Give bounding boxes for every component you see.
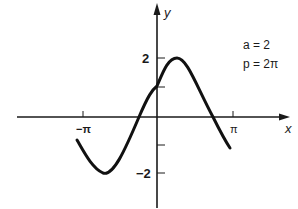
y-tick-label-2: 2 — [142, 51, 149, 66]
param-p-annotation: p = 2π — [243, 57, 278, 71]
sine-graph: y x −π π 2 −2 a = 2 p = 2π — [0, 0, 298, 209]
y-axis-label: y — [163, 5, 172, 20]
x-tick-label-neg-pi: −π — [76, 123, 91, 135]
y-axis-arrow-icon — [154, 3, 161, 15]
x-tick-label-pi: π — [230, 123, 238, 135]
x-axis-label: x — [284, 121, 292, 136]
param-a-annotation: a = 2 — [243, 38, 270, 52]
y-tick-label-neg2: −2 — [136, 166, 151, 181]
x-axis-arrow-icon — [279, 114, 290, 121]
sine-curve — [77, 58, 230, 173]
